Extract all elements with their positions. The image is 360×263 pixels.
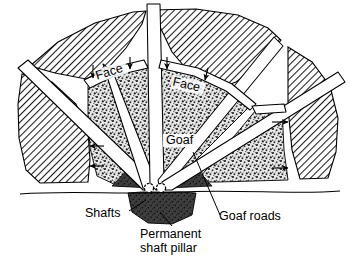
road-right-branch	[252, 104, 286, 114]
goaf-label: Goaf	[166, 133, 194, 147]
shafts-label: Shafts	[85, 206, 120, 220]
pillar-wedge-below	[128, 192, 196, 224]
shaft-circle-right	[156, 183, 165, 192]
road-center	[147, 4, 164, 190]
permanent-pillar-label-line1: Permanent	[140, 227, 202, 241]
goaf-roads-label: Goaf roads	[219, 209, 281, 223]
shaft-circle-left	[144, 183, 153, 192]
diagram-canvas: Face Face Goaf Shafts Goaf roads Permane…	[0, 0, 360, 263]
permanent-pillar-label-line2: shaft pillar	[140, 241, 197, 255]
mining-layout-diagram: Face Face Goaf Shafts Goaf roads Permane…	[0, 0, 360, 263]
